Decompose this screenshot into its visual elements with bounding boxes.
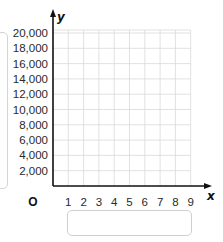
y-axis-name: y [57,10,65,24]
x-tick-label: 9 [187,196,193,208]
answer-input-box[interactable] [67,210,192,236]
axes [50,9,212,189]
x-tick-label: 7 [157,196,163,208]
y-tick-label: 4,000 [19,149,48,161]
y-axis-arrow-icon [50,9,56,17]
y-tick-label: 12,000 [13,88,48,100]
y-tick-label: 10,000 [13,104,48,116]
x-axis-name: x [207,189,215,203]
y-tick-label: 8,000 [19,119,48,131]
x-tick-label: 1 [65,196,71,208]
x-tick-label: 8 [172,196,178,208]
y-axis-labels: 20,00018,00016,00014,00012,00010,0008,00… [0,0,48,242]
x-tick-label: 6 [142,196,148,208]
origin-label: O [28,195,37,209]
y-tick-label: 18,000 [13,42,48,54]
grid-lines [53,30,191,186]
y-tick-label: 20,000 [13,27,48,39]
x-tick-label: 2 [80,196,86,208]
y-tick-label: 16,000 [13,58,48,70]
y-tick-label: 14,000 [13,73,48,85]
y-tick-label: 2,000 [19,165,48,177]
x-tick-label: 3 [96,196,102,208]
y-tick-label: 6,000 [19,134,48,146]
x-tick-label: 4 [111,196,117,208]
x-tick-label: 5 [126,196,132,208]
